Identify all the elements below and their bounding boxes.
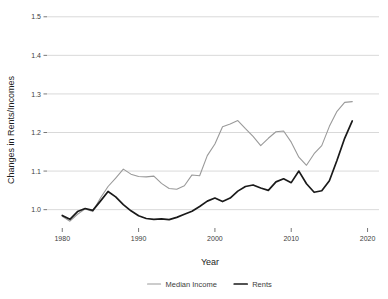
y-tick-label: 1.3 [31,91,41,98]
chart-legend: Median IncomeRents [148,280,272,289]
chart-canvas: 1.01.11.21.31.41.5 19801990200020102020 … [0,0,388,299]
y-tick-label: 1.1 [31,168,41,175]
x-tick-label: 2020 [360,235,376,242]
chart-background [0,0,388,299]
x-axis-title: Year [201,257,219,267]
y-tick-label: 1.4 [31,52,41,59]
legend-label-rents: Rents [252,280,272,289]
y-tick-label: 1.0 [31,206,41,213]
y-tick-label: 1.2 [31,129,41,136]
line-chart-figure: 1.01.11.21.31.41.5 19801990200020102020 … [0,0,388,299]
x-tick-label: 1980 [54,235,70,242]
legend-label-median-income: Median Income [166,280,217,289]
x-tick-label: 2010 [283,235,299,242]
x-tick-label: 1990 [131,235,147,242]
y-axis-title: Changes in Rents/Incomes [6,75,16,184]
y-tick-label: 1.5 [31,13,41,20]
x-tick-label: 2000 [207,235,223,242]
